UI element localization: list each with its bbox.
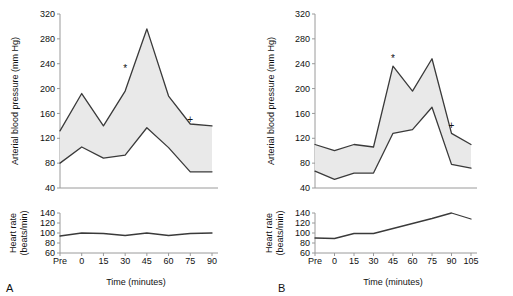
x-tick-label: 0 bbox=[332, 256, 337, 266]
panel-a-letter: A bbox=[6, 282, 13, 294]
asterisk-marker: * bbox=[391, 53, 395, 64]
y-tick-label: 40 bbox=[300, 183, 310, 193]
x-tick-label: 90 bbox=[446, 256, 456, 266]
x-tick-label: 105 bbox=[463, 256, 478, 266]
y-tick-label: 320 bbox=[40, 9, 55, 19]
y-tick-label: 100 bbox=[40, 228, 55, 238]
x-tick-label: 45 bbox=[142, 256, 152, 266]
x-axis-title: Time (minutes) bbox=[363, 277, 423, 287]
plus-marker: + bbox=[187, 114, 193, 125]
y-tick-label: 160 bbox=[295, 109, 310, 119]
panel-a-charts: 4080120160200240280320*+6080100120140Pre… bbox=[0, 0, 258, 296]
panel-b-letter: B bbox=[278, 282, 285, 294]
y-tick-label: 280 bbox=[295, 34, 310, 44]
y-tick-label: 240 bbox=[295, 59, 310, 69]
y-tick-label: 140 bbox=[295, 208, 310, 218]
x-tick-label: 60 bbox=[164, 256, 174, 266]
x-tick-label: 30 bbox=[120, 256, 130, 266]
y-tick-label: 80 bbox=[300, 238, 310, 248]
y-tick-label: 120 bbox=[40, 133, 55, 143]
y-tick-label: 40 bbox=[45, 183, 55, 193]
y-tick-label: 280 bbox=[40, 34, 55, 44]
x-tick-label: 15 bbox=[98, 256, 108, 266]
x-tick-label: 45 bbox=[388, 256, 398, 266]
panel-b: Arterial blood pressure (mm Hg) Heart ra… bbox=[258, 0, 513, 296]
asterisk-marker: * bbox=[123, 63, 127, 74]
panel-a: Arterial blood pressure (mm Hg) Heart ra… bbox=[0, 0, 258, 296]
x-tick-label: 90 bbox=[207, 256, 217, 266]
y-tick-label: 320 bbox=[295, 9, 310, 19]
y-tick-label: 80 bbox=[300, 158, 310, 168]
y-tick-label: 80 bbox=[45, 158, 55, 168]
x-tick-label: 60 bbox=[407, 256, 417, 266]
x-tick-label: 30 bbox=[368, 256, 378, 266]
y-tick-label: 120 bbox=[40, 218, 55, 228]
x-tick-label: 0 bbox=[79, 256, 84, 266]
y-tick-label: 120 bbox=[295, 133, 310, 143]
y-tick-label: 160 bbox=[40, 109, 55, 119]
y-tick-label: 120 bbox=[295, 218, 310, 228]
y-tick-label: 140 bbox=[40, 208, 55, 218]
x-tick-label: Pre bbox=[53, 256, 67, 266]
x-axis-title: Time (minutes) bbox=[106, 277, 166, 287]
y-tick-label: 200 bbox=[295, 84, 310, 94]
heart-rate-line bbox=[60, 233, 212, 236]
figure-container: Arterial blood pressure (mm Hg) Heart ra… bbox=[0, 0, 513, 296]
bp-range-band bbox=[60, 29, 212, 172]
panel-b-charts: 4080120160200240280320*+6080100120140Pre… bbox=[258, 0, 513, 296]
x-tick-label: 75 bbox=[427, 256, 437, 266]
y-tick-label: 200 bbox=[40, 84, 55, 94]
plus-marker: + bbox=[449, 120, 455, 131]
x-tick-label: 15 bbox=[349, 256, 359, 266]
y-tick-label: 80 bbox=[45, 238, 55, 248]
y-tick-label: 100 bbox=[295, 228, 310, 238]
heart-rate-line bbox=[315, 213, 471, 239]
x-tick-label: 75 bbox=[185, 256, 195, 266]
y-tick-label: 240 bbox=[40, 59, 55, 69]
x-tick-label: Pre bbox=[308, 256, 322, 266]
